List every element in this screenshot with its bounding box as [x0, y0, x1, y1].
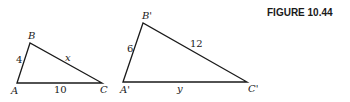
triangle-a-prime-b-prime-c-prime: B' A' C' 6 12 y — [119, 10, 258, 95]
side-ab-length: 4 — [16, 54, 22, 65]
side-a-prime-c-prime-length: y — [176, 83, 183, 94]
triangle-abc: B A C 4 x 10 — [10, 30, 108, 96]
side-bc-length: x — [65, 52, 71, 63]
vertex-label-a: A — [10, 85, 18, 96]
vertex-label-b-prime: B' — [141, 10, 152, 21]
triangle-abc-outline — [17, 43, 102, 83]
vertex-label-b: B — [27, 30, 35, 41]
similar-triangles-diagram: B A C 4 x 10 B' A' C' 6 12 y FIGURE 10.4… — [0, 0, 350, 102]
figure-caption: FIGURE 10.44 — [267, 7, 333, 18]
vertex-label-c-prime: C' — [248, 83, 258, 94]
triangle-a-prime-b-prime-c-prime-outline — [123, 23, 247, 82]
side-b-prime-c-prime-length: 12 — [190, 38, 203, 49]
side-ac-length: 10 — [54, 84, 67, 95]
vertex-label-c: C — [100, 84, 108, 95]
side-a-prime-b-prime-length: 6 — [127, 43, 133, 54]
vertex-label-a-prime: A' — [119, 84, 130, 95]
